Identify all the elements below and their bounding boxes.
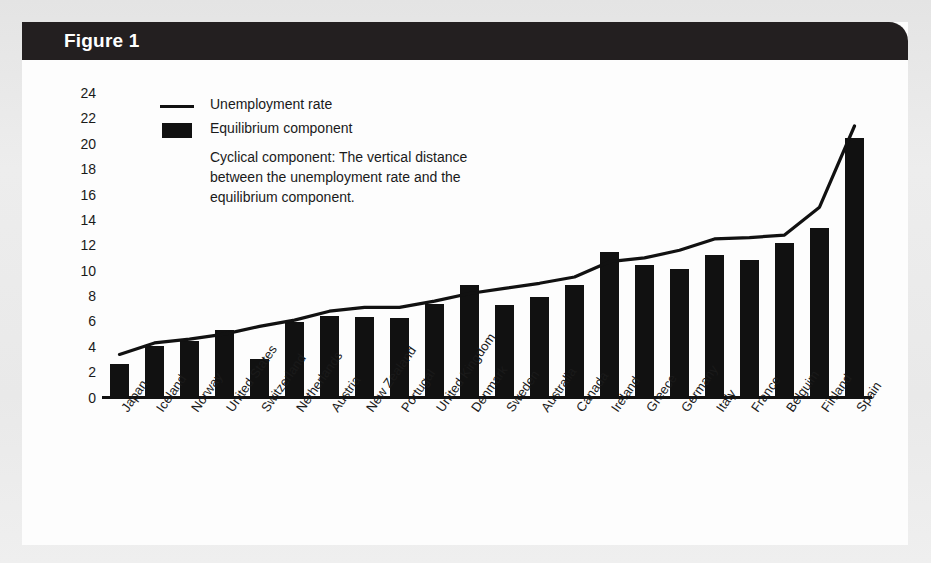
legend-bar-swatch-icon bbox=[162, 123, 192, 138]
legend-bar-label: Equilibrium component bbox=[210, 120, 352, 136]
legend-entry-unemployment-rate: Unemployment rate bbox=[160, 95, 490, 119]
legend-line-swatch-icon bbox=[160, 105, 194, 108]
figure-header-bar bbox=[22, 22, 908, 60]
legend-line-label: Unemployment rate bbox=[210, 96, 332, 112]
legend-entry-equilibrium-component: Equilibrium component bbox=[160, 119, 490, 143]
legend-cyclical-note: Cyclical component: The vertical distanc… bbox=[210, 147, 500, 207]
figure-title: Figure 1 bbox=[64, 30, 140, 52]
chart-legend: Unemployment rate Equilibrium component … bbox=[160, 95, 490, 143]
